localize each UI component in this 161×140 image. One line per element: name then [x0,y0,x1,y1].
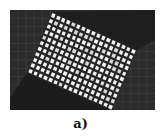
figure-panel [10,10,155,110]
figure-caption: a) [0,116,161,131]
